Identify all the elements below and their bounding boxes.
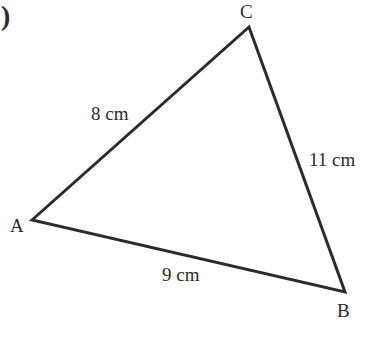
- side-label-ab: 9 cm: [162, 265, 199, 284]
- triangle-diagram: ) C A B 8 cm 11 cm 9 cm: [0, 0, 367, 341]
- vertex-label-b: B: [337, 301, 350, 320]
- triangle-shape: [0, 0, 367, 341]
- vertex-label-c: C: [240, 2, 253, 21]
- side-label-cb: 11 cm: [309, 150, 355, 169]
- side-label-ac: 8 cm: [91, 104, 128, 123]
- part-marker: ): [1, 2, 10, 30]
- vertex-label-a: A: [10, 216, 24, 235]
